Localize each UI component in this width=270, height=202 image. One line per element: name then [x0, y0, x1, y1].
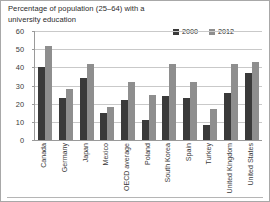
bar [59, 98, 66, 140]
bar [203, 125, 210, 140]
x-label-cell: Japan [75, 141, 96, 197]
x-label-cell: Canada [34, 141, 55, 197]
x-tick-label: Turkey [206, 143, 213, 164]
bar-group [97, 31, 118, 140]
bar-group [200, 31, 221, 140]
x-label-cell: United Kingdom [220, 141, 241, 197]
bar-group [56, 31, 77, 140]
bar [245, 73, 252, 140]
bar [252, 62, 259, 140]
bar [149, 95, 156, 140]
bar [80, 78, 87, 140]
plot-area: 0102030405060 [34, 31, 262, 141]
bar [87, 64, 94, 140]
x-label-cell: Mexico [96, 141, 117, 197]
y-tick-label: 60 [0, 27, 24, 36]
bar [210, 109, 217, 140]
x-label-cell: Germany [55, 141, 76, 197]
x-label-cell: Poland [137, 141, 158, 197]
bar [100, 113, 107, 140]
y-tick-label: 20 [0, 100, 24, 109]
chart-title: Percentage of population (25–64) with a … [8, 4, 198, 25]
x-label-cell: OECD average [117, 141, 138, 197]
bar-group [241, 31, 262, 140]
y-tick-label: 40 [0, 63, 24, 72]
bar [107, 107, 114, 140]
bar [169, 64, 176, 140]
bar-group [179, 31, 200, 140]
bar [162, 96, 169, 140]
x-tick-label: United Kingdom [227, 143, 234, 193]
bar-group [76, 31, 97, 140]
x-tick-label: Germany [61, 143, 68, 172]
x-tick-label: South Korea [165, 143, 172, 182]
x-axis-baseline [7, 197, 263, 198]
x-tick-label: United States [247, 143, 254, 186]
x-tick-label: Poland [144, 143, 151, 165]
bar-group [221, 31, 242, 140]
bar-groups [35, 31, 262, 140]
y-tick-label: 50 [0, 45, 24, 54]
x-label-cell: Turkey [199, 141, 220, 197]
bar [38, 67, 45, 140]
x-tick-label: Canada [41, 143, 48, 168]
bar [231, 64, 238, 140]
bar [66, 89, 73, 140]
y-tick-label: 0 [0, 136, 24, 145]
bar [45, 46, 52, 140]
x-tick-label: OECD average [123, 143, 130, 191]
x-label-cell: South Korea [158, 141, 179, 197]
bar-group [35, 31, 56, 140]
y-tick-label: 30 [0, 82, 24, 91]
bar [224, 93, 231, 140]
y-tick-label: 10 [0, 118, 24, 127]
x-tick-label: Spain [185, 143, 192, 161]
x-axis-labels: CanadaGermanyJapanMexicoOECD averagePola… [34, 141, 261, 197]
bar [190, 82, 197, 140]
bar [183, 98, 190, 140]
bar [142, 120, 149, 140]
bar-group [138, 31, 159, 140]
x-label-cell: Spain [178, 141, 199, 197]
x-tick-label: Japan [82, 143, 89, 162]
bar-group [118, 31, 139, 140]
bar [121, 100, 128, 140]
x-label-cell: United States [240, 141, 261, 197]
chart-figure: Percentage of population (25–64) with a … [0, 0, 270, 202]
bar [128, 82, 135, 140]
bar-group [159, 31, 180, 140]
x-tick-label: Mexico [103, 143, 110, 165]
